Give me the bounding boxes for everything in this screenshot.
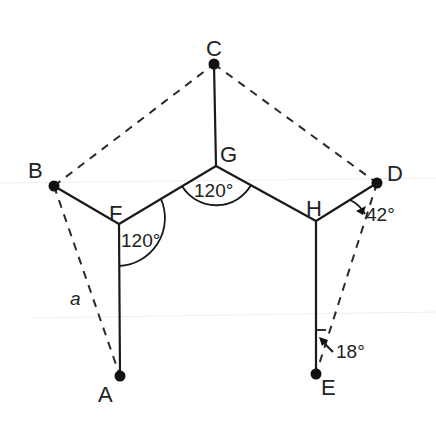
angle-label-F: 120° [121, 230, 160, 251]
side-label-a: a [70, 288, 81, 309]
angle-label-D: 42° [366, 204, 395, 225]
geometry-diagram: A B C D E F G H a 120° 120° 42° 18° [0, 0, 436, 426]
solid-segment-FA [119, 224, 120, 376]
point-B [49, 181, 60, 192]
point-E [311, 369, 322, 380]
dashed-segment-BC [54, 64, 214, 186]
label-B: B [28, 158, 43, 183]
label-G: G [220, 142, 237, 167]
label-F: F [109, 201, 122, 226]
angle-label-G: 120° [194, 180, 233, 201]
label-H: H [306, 196, 322, 221]
label-A: A [98, 382, 113, 407]
label-C: C [206, 36, 222, 61]
solid-segment-GC [214, 64, 216, 166]
angle-label-E: 18° [336, 341, 365, 362]
label-D: D [387, 161, 403, 186]
scan-line [30, 312, 436, 318]
point-D [372, 178, 383, 189]
dashed-segment-CD [214, 64, 377, 183]
label-E: E [321, 375, 336, 400]
point-A [115, 371, 126, 382]
